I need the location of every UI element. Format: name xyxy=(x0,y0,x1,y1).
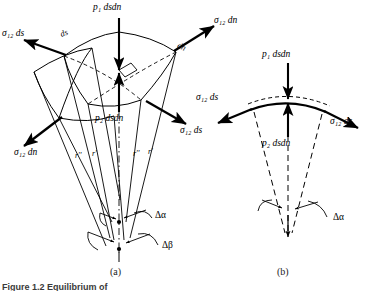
angle-delta-alpha-b xyxy=(258,200,327,217)
label-angle-beta-a: Δβ xyxy=(162,241,173,251)
label-force-p1-b: p₁ dsdn xyxy=(262,50,290,60)
curvature-center-alpha-a xyxy=(117,220,121,224)
panel-a-group xyxy=(24,18,214,262)
tension-sigma-ds-left-b xyxy=(218,109,252,123)
angle-delta-beta-a xyxy=(88,232,158,250)
label-radius-double-left-a: r'' xyxy=(75,152,82,160)
label-force-p1-a: p₁ dsdn xyxy=(93,3,121,13)
label-tension-ds-left-b: σ₁₂ ds xyxy=(196,93,218,103)
label-radius-double-right-a: r'' xyxy=(133,150,140,158)
label-tension-dn-lower-left-a: σ₁₂ dn xyxy=(14,148,37,158)
tension-sigma-ds-lower-right-a xyxy=(146,101,186,124)
panel-label-b: (b) xyxy=(277,266,289,277)
label-tension-ds-lower-right-a: σ₁₂ ds xyxy=(180,126,202,136)
figure-caption: Figure 1.2 Equilibrium of xyxy=(2,282,108,291)
tension-sigma-dn-lower-left-a xyxy=(24,117,62,146)
label-tension-ds-upper-left-a: σ₁₂ ds xyxy=(2,29,24,39)
label-angle-alpha-a: Δα xyxy=(155,211,166,221)
label-angle-alpha-b: Δα xyxy=(333,213,344,223)
label-force-p2-a: p₂ dsdn xyxy=(95,114,123,124)
label-tension-dn-upper-right-a: σ₁₂ dn xyxy=(214,16,237,26)
tension-sigma-ds-upper-left-a xyxy=(24,40,66,55)
panel-label-a: (a) xyxy=(110,266,121,277)
label-tension-ds-right-b: σ₁₂ ds xyxy=(330,117,352,127)
label-radius-single-right-a: r' xyxy=(148,148,153,156)
label-radius-single-left-a: r' xyxy=(92,150,97,158)
figure-container: p₁ dsdn p₂ dsdn ds dn σ₁₂ ds σ₁₂ dn σ₁₂ … xyxy=(0,0,371,291)
label-force-p2-b: p₂ dsdn xyxy=(262,139,290,149)
right-angle-marker xyxy=(119,63,137,77)
panel-b-group xyxy=(218,63,358,237)
